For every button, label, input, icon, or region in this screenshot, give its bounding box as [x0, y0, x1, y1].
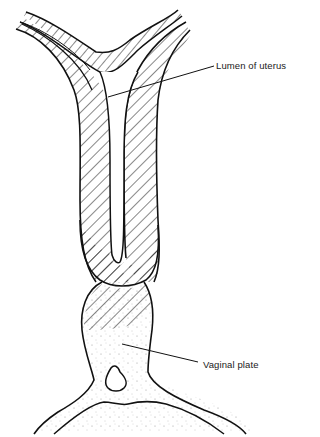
label-vaginal-plate: Vaginal plate: [203, 359, 259, 370]
label-lumen-of-uterus: Lumen of uterus: [216, 60, 286, 71]
vaginal-region: [34, 282, 258, 434]
